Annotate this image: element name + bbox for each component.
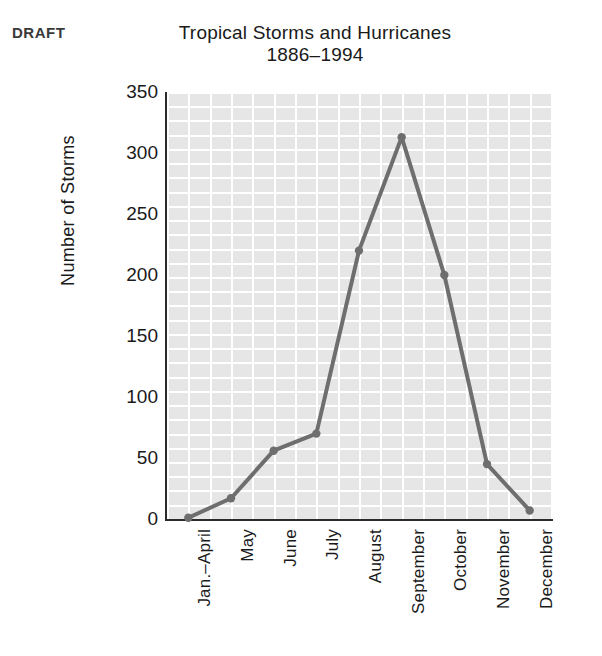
x-tick-label: Jan.–April <box>195 529 215 607</box>
data-point-marker <box>355 246 363 254</box>
y-tick-label: 350 <box>106 82 158 101</box>
data-point-marker <box>525 506 533 514</box>
data-series-line <box>167 92 551 520</box>
series-polyline <box>188 137 529 518</box>
y-tick-label: 200 <box>106 265 158 284</box>
y-axis-tick-labels: 050100150200250300350 <box>100 0 158 656</box>
x-tick-label: December <box>537 529 557 609</box>
x-tick-label: June <box>281 529 301 567</box>
x-tick-label: October <box>451 529 471 591</box>
data-point-marker <box>227 494 235 502</box>
x-tick-label: November <box>494 529 514 609</box>
data-point-marker <box>440 271 448 279</box>
data-point-marker <box>312 429 320 437</box>
x-tick-label: July <box>323 529 343 560</box>
y-tick-label: 0 <box>106 509 158 528</box>
data-point-marker <box>397 133 405 141</box>
x-tick-label: September <box>409 529 429 614</box>
data-point-marker <box>269 446 277 454</box>
y-tick-label: 250 <box>106 204 158 223</box>
x-axis-tick-labels: Jan.–AprilMayJuneJulyAugustSeptemberOcto… <box>167 519 551 656</box>
x-tick-label: May <box>238 529 258 562</box>
y-tick-label: 300 <box>106 143 158 162</box>
y-tick-label: 100 <box>106 387 158 406</box>
chart-plot-wrapper: 050100150200250300350 Jan.–AprilMayJuneJ… <box>0 0 602 656</box>
y-tick-label: 150 <box>106 326 158 345</box>
data-point-marker <box>483 460 491 468</box>
x-tick-label: August <box>366 529 386 583</box>
y-tick-label: 50 <box>106 448 158 467</box>
